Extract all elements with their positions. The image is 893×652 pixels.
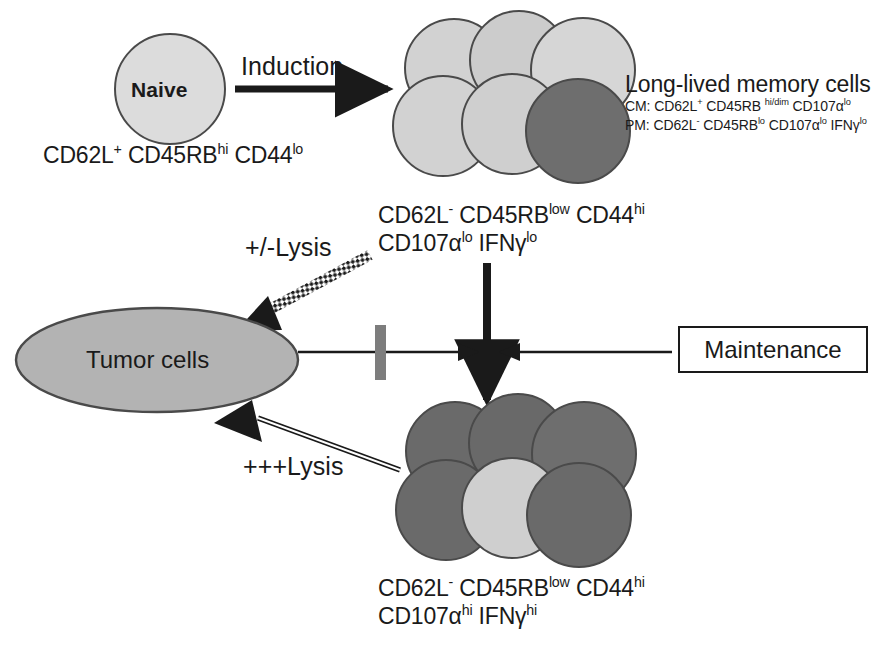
- strong-lysis-label: +++Lysis: [243, 452, 344, 480]
- mem-l1-p2: CD45RB: [453, 202, 549, 228]
- inhibition-blocker-bar: [375, 325, 386, 380]
- mem-l2-s2: lo: [526, 229, 537, 245]
- weak-lysis-arrow: [236, 255, 370, 331]
- memory-cells-cm-subtitle: CM: CD62L+ CD45RB hi/dim CD107αlo: [625, 99, 851, 115]
- memory-cell-cluster: [393, 11, 635, 183]
- induction-arrow-label: Induction: [241, 52, 343, 80]
- pm-s4: lo: [860, 116, 867, 126]
- eff-l1-s2: low: [549, 574, 570, 590]
- naive-marker-cd62l: CD62L: [43, 142, 114, 168]
- eff-l2-p1: CD107α: [378, 603, 462, 629]
- eff-l1-p1: CD62L: [378, 575, 449, 601]
- naive-cell-markers: CD62L+ CD45RBhi CD44lo: [43, 143, 303, 169]
- mem-l1-s2: low: [549, 201, 570, 217]
- cm-p1: CM: CD62L: [625, 98, 697, 114]
- figure-canvas: Naive CD62L+ CD45RBhi CD44lo Induction L…: [0, 0, 893, 652]
- eff-l2-s2: hi: [526, 602, 537, 618]
- pm-p4: IFNγ: [827, 117, 860, 133]
- pm-p1: PM: CD62L: [625, 117, 696, 133]
- naive-marker-cd45rb: CD45RB: [122, 142, 218, 168]
- naive-cell-label: Naive: [131, 78, 188, 102]
- mem-l1-s3: hi: [634, 201, 645, 217]
- mem-l2-p1: CD107α: [378, 230, 462, 256]
- memory-cells-markers-line1: CD62L- CD45RBlow CD44hi: [378, 203, 645, 229]
- tumor-cells-label: Tumor cells: [86, 347, 209, 374]
- eff-l1-p2: CD45RB: [453, 575, 549, 601]
- pm-s3: lo: [820, 116, 827, 126]
- effector-cells-markers-line2: CD107αhi IFNγhi: [378, 604, 537, 630]
- mem-l2-p2: IFNγ: [472, 230, 526, 256]
- mem-l2-s1: lo: [462, 229, 473, 245]
- memory-cells-pm-subtitle: PM: CD62L- CD45RBlo CD107αlo IFNγlo: [625, 118, 867, 134]
- cm-s3: lo: [844, 97, 851, 107]
- eff-l1-s3: hi: [634, 574, 645, 590]
- mem-l1-p3: CD44: [570, 202, 634, 228]
- cm-s2: hi/dim: [765, 97, 789, 107]
- eff-l2-s1: hi: [462, 602, 473, 618]
- effector-cell-cluster: [396, 394, 636, 567]
- pm-p2: CD45RB: [699, 117, 757, 133]
- maintenance-box[interactable]: Maintenance: [678, 326, 868, 373]
- cm-p3: CD107α: [789, 98, 844, 114]
- memory-cells-title: Long-lived memory cells: [625, 72, 871, 98]
- naive-marker-cd44-sup: lo: [292, 141, 303, 157]
- naive-marker-cd44: CD44: [228, 142, 292, 168]
- eff-l1-p3: CD44: [570, 575, 634, 601]
- effector-cells-markers-line1: CD62L- CD45RBlow CD44hi: [378, 576, 645, 602]
- pm-s2: lo: [758, 116, 765, 126]
- pm-p3: CD107α: [765, 117, 820, 133]
- eff-l2-p2: IFNγ: [472, 603, 526, 629]
- mem-l1-p1: CD62L: [378, 202, 449, 228]
- weak-lysis-label: +/-Lysis: [245, 233, 332, 261]
- maintenance-label: Maintenance: [704, 336, 841, 364]
- memory-cells-markers-line2: CD107αlo IFNγlo: [378, 231, 537, 257]
- naive-marker-cd45rb-sup: hi: [217, 141, 228, 157]
- naive-marker-cd62l-sup: +: [114, 141, 122, 157]
- cm-p2: CD45RB: [703, 98, 765, 114]
